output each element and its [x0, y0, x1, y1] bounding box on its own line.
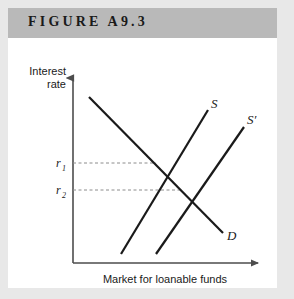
rate-label-r1-subscript: 1: [62, 164, 66, 173]
curve-label-supply-shifted: S′: [247, 112, 257, 127]
rate-label-r2-base: r: [56, 183, 61, 197]
figure-card: FIGURE A9.3 Interest rate: [8, 8, 277, 288]
figure-title: FIGURE A9.3: [28, 14, 148, 30]
supply-curve: [121, 110, 208, 254]
figure-plot-area: Interest rate r 1 r 2 S S′ D: [8, 38, 277, 288]
curve-label-supply: S: [211, 96, 218, 111]
rate-label-r1-base: r: [56, 156, 61, 170]
curve-label-demand: D: [226, 228, 237, 243]
y-axis-label-line1: Interest: [29, 65, 66, 77]
x-axis-label: Market for loanable funds: [103, 273, 228, 285]
supply-demand-diagram: Interest rate r 1 r 2 S S′ D: [8, 38, 277, 288]
y-axis-label-line2: rate: [47, 78, 66, 90]
figure-header-band: FIGURE A9.3: [8, 8, 277, 38]
rate-label-r2-subscript: 2: [62, 191, 66, 200]
